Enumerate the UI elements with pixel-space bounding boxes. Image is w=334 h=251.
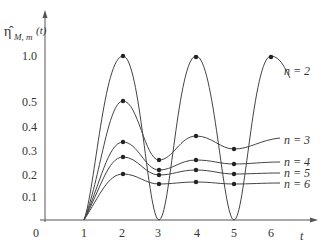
chart: η̂ M, m (t) 1.0 0.5 0.4 0.3 0.2 0.1 0 1 …: [0, 0, 334, 251]
y-axis-label: η̂ M, m (t): [4, 24, 47, 42]
y-tick-label: 0.1: [22, 190, 37, 204]
legend: n = 2 n = 3 n = 4 n = 5 n = 6: [284, 64, 310, 191]
series-n2-markers: [121, 54, 273, 59]
series-n3-line: [84, 101, 280, 220]
x-tick-label: 5: [231, 226, 237, 240]
x-tick-label: 3: [155, 226, 161, 240]
x-tick-label: 0: [33, 226, 39, 240]
chart-svg: η̂ M, m (t) 1.0 0.5 0.4 0.3 0.2 0.1 0 1 …: [0, 0, 334, 251]
x-tick-label: 1: [81, 226, 87, 240]
series-n5-markers: [121, 155, 236, 177]
y-tick-labels: 1.0 0.5 0.4 0.3 0.2 0.1: [22, 49, 37, 204]
x-axis: [40, 218, 318, 223]
series-n4-line: [84, 142, 280, 220]
y-tick-label: 0.3: [22, 144, 37, 158]
series-n2-line: [84, 56, 290, 220]
svg-text:η̂: η̂: [4, 24, 14, 39]
y-tick-label: 0.5: [22, 95, 37, 109]
y-tick-label: 1.0: [22, 49, 37, 63]
legend-n6: n = 6: [284, 177, 310, 191]
x-tick-label: 6: [268, 226, 274, 240]
y-axis-arrow-icon: [43, 10, 48, 18]
series-n6-line: [84, 174, 280, 220]
x-tick-labels: 0 1 2 3 4 5 6 t: [33, 226, 304, 243]
y-axis: [43, 10, 48, 222]
x-tick-label: 4: [194, 226, 200, 240]
x-tick-label: 2: [119, 226, 125, 240]
svg-text:M, m: M, m: [13, 32, 33, 42]
x-axis-label: t: [300, 229, 304, 243]
series-n5-line: [84, 157, 280, 220]
y-tick-label: 0.4: [22, 120, 37, 134]
series-n6-markers: [121, 172, 236, 186]
y-tick-label: 0.2: [22, 168, 37, 182]
svg-text:(t): (t): [36, 24, 47, 37]
series-n3-markers: [121, 99, 236, 162]
x-axis-arrow-icon: [310, 218, 318, 223]
legend-n3: n = 3: [284, 133, 310, 147]
legend-n2: n = 2: [284, 64, 310, 78]
